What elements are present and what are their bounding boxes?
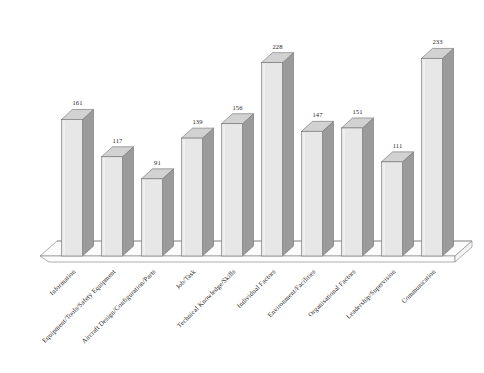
bar-side-face [203, 128, 214, 256]
bar-group: 161 [62, 99, 94, 256]
bar-front-face [382, 162, 403, 256]
bar-group: 111 [382, 142, 414, 256]
bar-value-label: 117 [113, 137, 124, 144]
bar-side-face [123, 147, 134, 256]
chart-canvas: 23311115114722815613991117161Information… [0, 0, 484, 373]
bar-side-face [243, 114, 254, 256]
bar-front-face [222, 124, 243, 256]
bar-side-face [323, 121, 334, 256]
category-axis-label: Communication [400, 267, 437, 304]
bar-side-face [443, 48, 454, 256]
category-axis-label: Job/Task [174, 267, 197, 290]
bar-value-label: 161 [72, 99, 82, 106]
bar-value-label: 147 [312, 111, 323, 118]
bar-group: 117 [102, 137, 134, 256]
bar-side-face [283, 53, 294, 256]
bar-front-face [182, 138, 203, 256]
bar-value-label: 233 [432, 38, 443, 45]
bar-group: 151 [342, 108, 374, 256]
category-axis-label: Information [48, 267, 77, 296]
bar-group: 228 [262, 43, 294, 256]
bar-side-face [403, 152, 414, 256]
bar-group: 91 [142, 159, 174, 256]
bar-value-label: 139 [192, 118, 203, 125]
bar-value-label: 111 [393, 142, 403, 149]
bar-value-label: 156 [232, 104, 243, 111]
bar-front-face [342, 128, 363, 256]
category-axis-label: Individual Factors [235, 268, 277, 310]
bar-front-face [302, 131, 323, 256]
bar-group: 233 [422, 38, 454, 256]
category-axis-label: Aircraft Design/Configuration/Parts [80, 268, 157, 345]
bar-front-face [102, 157, 123, 256]
bar-front-face [422, 58, 443, 256]
bar-side-face [363, 118, 374, 256]
floor-front-edge [40, 256, 455, 262]
bar-front-face [142, 179, 163, 256]
bar-group: 156 [222, 104, 254, 256]
bar-side-face [83, 109, 94, 256]
bar-group: 139 [182, 118, 214, 256]
bar-front-face [62, 119, 83, 256]
bar-value-label: 228 [272, 43, 283, 50]
bar-value-label: 151 [352, 108, 362, 115]
bar-side-face [163, 169, 174, 256]
category-axis-label: Equipment/Tools/Safety Equipment [41, 268, 117, 344]
bar-group: 147 [302, 111, 334, 256]
bar-front-face [262, 63, 283, 256]
bar-value-label: 91 [154, 159, 161, 166]
bar-chart-figure: 23311115114722815613991117161Information… [0, 0, 484, 373]
